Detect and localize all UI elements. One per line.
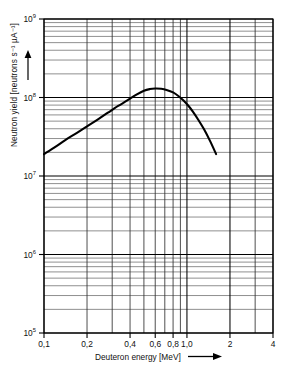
y-axis-title-text: Neutron yield [neutrons s⁻¹ µA⁻¹]: [9, 23, 19, 147]
x-axis-arrow-icon: [188, 352, 222, 363]
y-axis-title: Neutron yield [neutrons s⁻¹ µA⁻¹]: [9, 0, 23, 175]
x-tick-label: 1,0: [174, 339, 200, 349]
y-tick-label: 105: [10, 327, 36, 338]
x-tick-label: 0,4: [117, 339, 143, 349]
x-axis-title: Deuteron energy [MeV]: [44, 352, 273, 366]
x-tick-label: 4: [260, 339, 286, 349]
figure-container: 109108107106105 0,10,20,40,60,81,024 Neu…: [0, 0, 291, 373]
neutron-yield-plot: [0, 0, 291, 373]
x-tick-label: 2: [217, 339, 243, 349]
y-tick-label: 106: [10, 249, 36, 260]
x-axis-title-text: Deuteron energy [MeV]: [95, 352, 181, 362]
x-tick-label: 0,2: [74, 339, 100, 349]
x-tick-label: 0,1: [31, 339, 57, 349]
